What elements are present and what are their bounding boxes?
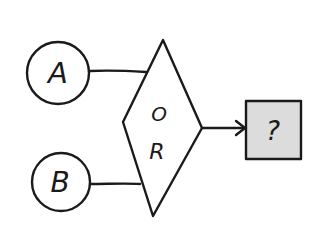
edge-a-to-gate — [90, 71, 146, 72]
output-node[interactable]: ? — [246, 101, 301, 159]
or-gate-label-o: O — [151, 102, 167, 126]
input-node-b[interactable]: B — [32, 153, 90, 211]
diagram-svg: A B O R ? — [0, 0, 323, 246]
diagram-canvas: A B O R ? — [0, 0, 323, 246]
or-gate[interactable]: O R — [123, 40, 202, 216]
output-label: ? — [266, 115, 280, 146]
input-a-label: A — [46, 56, 68, 90]
input-node-a[interactable]: A — [27, 42, 89, 104]
or-gate-label-r: R — [149, 139, 164, 164]
input-b-label: B — [50, 166, 69, 199]
or-gate-diamond — [123, 40, 202, 216]
